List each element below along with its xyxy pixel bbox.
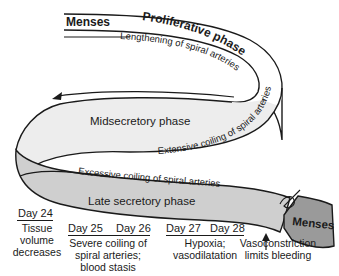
late-secretory-ribbon xyxy=(16,150,290,232)
phase-label-menses-start: Menses xyxy=(66,15,110,29)
day-28-label: Day 28 xyxy=(210,222,245,234)
direction-arrow-icon xyxy=(52,92,62,100)
day-25-26-note: Severe coiling of spiral arteries; blood… xyxy=(62,237,154,273)
note-line: Hypoxia; xyxy=(168,237,242,249)
phase-label-late-secretory: Late secretory phase xyxy=(88,195,195,207)
note-line: volume xyxy=(12,234,62,246)
note-line: Vasoconstriction xyxy=(238,237,318,249)
vasoconstriction-note: Vasoconstriction limits bleeding xyxy=(238,237,318,261)
day-26-label: Day 26 xyxy=(116,222,151,234)
day-24-label: Day 24 xyxy=(18,207,53,219)
day-24-underline xyxy=(17,220,53,221)
note-line: decreases xyxy=(12,246,62,258)
note-line: blood stasis xyxy=(62,261,154,273)
day-27-28-underline xyxy=(166,235,244,236)
note-line: Tissue xyxy=(12,222,62,234)
day-27-label: Day 27 xyxy=(166,222,201,234)
day-24-note: Tissue volume decreases xyxy=(12,222,62,258)
day-27-28-note: Hypoxia; vasodilatation xyxy=(168,237,242,261)
note-line: Severe coiling of xyxy=(62,237,154,249)
note-line: spiral arteries; xyxy=(62,249,154,261)
note-line: limits bleeding xyxy=(238,249,318,261)
phase-label-midsecretory: Midsecretory phase xyxy=(90,115,190,127)
note-line: vasodilatation xyxy=(168,249,242,261)
day-25-26-underline xyxy=(68,235,150,236)
day-25-label: Day 25 xyxy=(68,222,103,234)
